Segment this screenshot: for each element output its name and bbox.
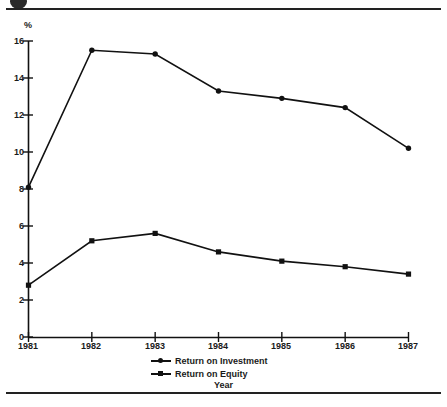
plot-area: % 16 14 12 10 8 6 4 2 0 1981 1982 1983 1… [0,0,447,407]
legend: Return on Investment Return on Equity [150,354,268,380]
legend-label-return-on-equity: Return on Equity [175,369,248,379]
series-return-on-investment [26,48,411,190]
axis-lines [28,41,409,338]
x-axis-title: Year [0,380,447,390]
figure-container: % 16 14 12 10 8 6 4 2 0 1981 1982 1983 1… [0,0,447,407]
legend-label-return-on-investment: Return on Investment [175,356,268,366]
legend-item-return-on-investment: Return on Investment [150,354,268,367]
chart-canvas [0,0,447,407]
legend-marker-square-icon [150,369,172,378]
series-return-on-equity [26,231,411,288]
legend-item-return-on-equity: Return on Equity [150,367,268,380]
legend-marker-circle-icon [150,356,172,365]
